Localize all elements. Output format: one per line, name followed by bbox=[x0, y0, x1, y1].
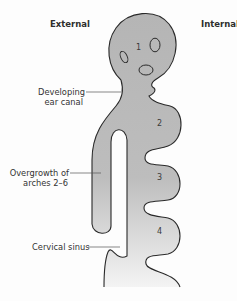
label-cervical-sinus: Cervical sinus bbox=[32, 242, 90, 252]
pharyngeal-arch-diagram: External Internal Developing ear canal O… bbox=[0, 0, 237, 301]
label-overgrowth-arches: Overgrowth of arches 2–6 bbox=[4, 168, 69, 188]
label-ear-canal-line1: Developing bbox=[38, 87, 85, 97]
arch-number-1: 1 bbox=[136, 43, 141, 52]
label-developing-ear-canal: Developing ear canal bbox=[38, 87, 85, 107]
head-pit-lower-icon bbox=[139, 65, 153, 75]
arch-number-2: 2 bbox=[157, 119, 162, 128]
header-external: External bbox=[50, 19, 90, 29]
label-overgrowth-line1: Overgrowth of bbox=[4, 168, 69, 178]
label-overgrowth-line2: arches 2–6 bbox=[4, 178, 68, 188]
embryo-outline-figure bbox=[0, 0, 237, 301]
arch-number-3: 3 bbox=[157, 173, 162, 182]
arch-number-4: 4 bbox=[157, 227, 162, 236]
embryo-body-shape bbox=[92, 13, 181, 287]
header-internal: Internal bbox=[201, 19, 237, 29]
head-pit-right-icon bbox=[150, 38, 160, 52]
label-ear-canal-line2: ear canal bbox=[38, 97, 83, 107]
